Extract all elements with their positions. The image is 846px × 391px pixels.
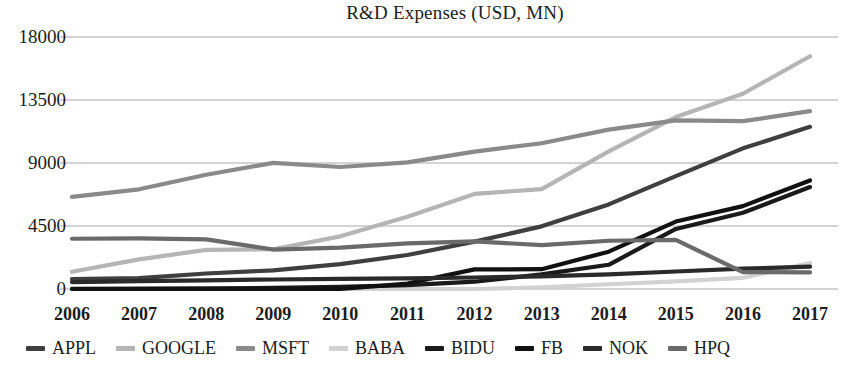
series-line-fb <box>72 180 810 289</box>
legend-swatch-icon <box>116 346 135 351</box>
x-axis-tick-label: 2014 <box>591 304 627 325</box>
y-axis-tick-label: 9000 <box>28 152 66 174</box>
legend-label: MSFT <box>262 338 309 359</box>
plot-area: 0450090001350018000 <box>0 0 846 310</box>
chart-legend: APPLGOOGLEMSFTBABABIDUFBNOKHPQ <box>0 336 846 360</box>
legend-item-appl[interactable]: APPL <box>26 336 96 360</box>
y-axis-tick-label: 13500 <box>19 89 67 111</box>
legend-swatch-icon <box>329 346 348 351</box>
legend-item-google[interactable]: GOOGLE <box>116 336 216 360</box>
y-axis-labels: 0450090001350018000 <box>0 0 66 310</box>
x-axis-tick-label: 2017 <box>792 304 828 325</box>
legend-label: FB <box>541 338 563 359</box>
legend-item-fb[interactable]: FB <box>515 336 563 360</box>
y-axis-tick-label: 4500 <box>28 215 66 237</box>
legend-swatch-icon <box>668 346 687 351</box>
x-axis-tick-label: 2012 <box>457 304 493 325</box>
legend-swatch-icon <box>26 346 45 351</box>
series-line-hpq <box>72 238 810 272</box>
legend-label: BIDU <box>451 338 495 359</box>
x-axis-tick-label: 2008 <box>188 304 224 325</box>
plot-svg <box>0 0 846 310</box>
x-axis-tick-label: 2016 <box>725 304 761 325</box>
x-axis-tick-label: 2013 <box>524 304 560 325</box>
x-axis-tick-label: 2009 <box>255 304 291 325</box>
legend-label: HPQ <box>694 338 730 359</box>
legend-item-nok[interactable]: NOK <box>583 336 648 360</box>
y-axis-tick-label: 18000 <box>19 26 67 48</box>
x-axis-tick-label: 2010 <box>322 304 358 325</box>
x-axis-tick-label: 2006 <box>54 304 90 325</box>
gridlines <box>60 37 838 289</box>
legend-swatch-icon <box>425 346 444 351</box>
legend-item-msft[interactable]: MSFT <box>236 336 309 360</box>
legend-label: APPL <box>52 338 96 359</box>
legend-swatch-icon <box>236 346 255 351</box>
legend-label: NOK <box>609 338 648 359</box>
y-axis-tick-label: 0 <box>57 278 67 300</box>
legend-item-hpq[interactable]: HPQ <box>668 336 730 360</box>
legend-item-baba[interactable]: BABA <box>329 336 405 360</box>
series-line-appl <box>72 127 810 279</box>
series-lines <box>72 56 810 289</box>
legend-label: GOOGLE <box>142 338 216 359</box>
legend-item-bidu[interactable]: BIDU <box>425 336 495 360</box>
legend-swatch-icon <box>583 346 602 351</box>
x-axis-tick-label: 2011 <box>390 304 425 325</box>
x-axis-tick-label: 2007 <box>121 304 157 325</box>
x-axis-labels: 2006200720082009201020112012201320142015… <box>0 304 846 334</box>
rd-expenses-line-chart: R&D Expenses (USD, MN) 04500900013500180… <box>0 0 846 391</box>
x-axis-tick-label: 2015 <box>658 304 694 325</box>
series-line-msft <box>72 111 810 197</box>
legend-swatch-icon <box>515 346 534 351</box>
legend-label: BABA <box>355 338 405 359</box>
